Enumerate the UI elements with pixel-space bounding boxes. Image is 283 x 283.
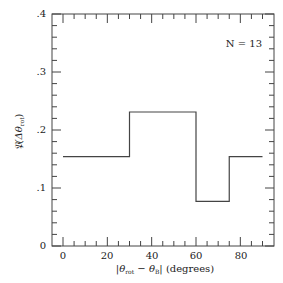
x-axis-label: |θrot − θB| (degrees)	[116, 263, 214, 275]
y-tick-label: .4	[36, 8, 46, 19]
y-axis-label: 𝔓(Δθrot)	[13, 113, 25, 150]
x-tick-label: 40	[146, 250, 159, 261]
y-tick-label: .2	[36, 124, 46, 135]
x-tick-label: 0	[60, 250, 66, 261]
x-tick-label: 80	[235, 250, 248, 261]
chart: 0 .1 .2 .3 .4 0 20 40 60 80 N = 13 |θrot…	[0, 0, 283, 283]
y-tick-labels: 0 .1 .2 .3 .4	[36, 8, 46, 251]
x-tick-label: 20	[101, 250, 114, 261]
y-tick-label: 0	[40, 240, 46, 251]
y-tick-label: .1	[36, 182, 46, 193]
x-tick-label: 60	[190, 250, 203, 261]
histogram-step-line	[63, 112, 263, 201]
y-tick-label: .3	[36, 66, 46, 77]
sample-size-annotation: N = 13	[226, 38, 262, 49]
x-tick-labels: 0 20 40 60 80	[60, 250, 248, 261]
